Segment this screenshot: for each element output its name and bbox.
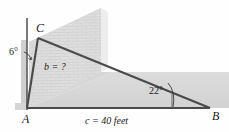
vertex-label-b: B	[212, 110, 219, 122]
triangle-diagram: C A B 6° 22° b = ? c = 40 feet	[0, 0, 229, 132]
side-label-b-unknown: b = ?	[44, 62, 66, 72]
vertex-label-a: A	[22, 113, 29, 125]
angle-label-6-degrees: 6°	[9, 47, 18, 57]
side-label-c-length: c = 40 feet	[85, 116, 128, 126]
angle-label-22-degrees: 22°	[149, 86, 163, 96]
vertex-label-c: C	[36, 22, 44, 34]
figure-canvas	[0, 0, 229, 132]
